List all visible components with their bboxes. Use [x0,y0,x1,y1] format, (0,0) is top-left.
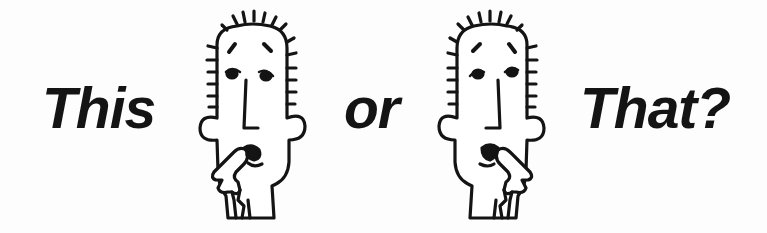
thinking-face-right-icon [432,0,552,233]
this-or-that-banner: This [0,0,767,233]
word-that: That? [580,80,730,137]
thinking-face-left-icon [192,0,312,233]
word-this: This [42,80,155,137]
word-or: or [344,80,399,137]
